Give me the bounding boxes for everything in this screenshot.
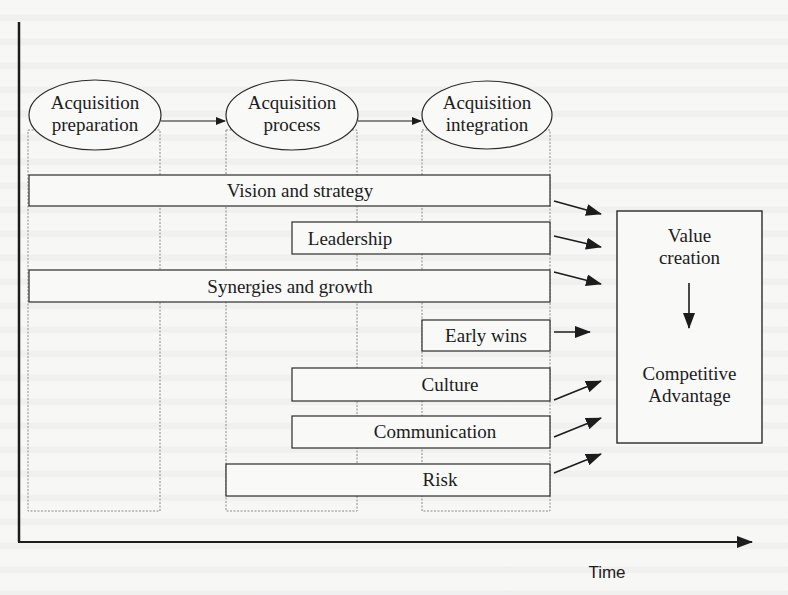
arrow-risk-to-value bbox=[554, 454, 601, 473]
competitive-advantage-label: Competitive Advantage bbox=[617, 363, 762, 407]
bar-label-synergies-and-growth: Synergies and growth bbox=[180, 276, 400, 298]
time-axis-label: Time bbox=[577, 562, 637, 584]
bar-label-communication: Communication bbox=[350, 421, 520, 443]
arrow-communication-to-value bbox=[554, 418, 601, 437]
bar-label-risk: Risk bbox=[400, 469, 480, 491]
bar-risk bbox=[226, 464, 550, 496]
arrow-vision-to-value bbox=[554, 201, 601, 214]
bar-label-culture: Culture bbox=[390, 374, 510, 396]
arrow-culture-to-value bbox=[554, 381, 601, 400]
phase-label-process: Acquisition process bbox=[232, 92, 352, 136]
value-creation-label: Value creation bbox=[617, 225, 762, 269]
bar-label-early-wins: Early wins bbox=[422, 325, 550, 347]
arrow-leadership-to-value bbox=[554, 236, 601, 247]
bar-label-leadership: Leadership bbox=[280, 228, 420, 250]
phase-label-integration: Acquisition integration bbox=[427, 92, 547, 136]
bar-label-vision-and-strategy: Vision and strategy bbox=[200, 180, 400, 202]
phase-label-preparation: Acquisition preparation bbox=[35, 92, 155, 136]
arrow-synergies-to-value bbox=[554, 272, 601, 284]
